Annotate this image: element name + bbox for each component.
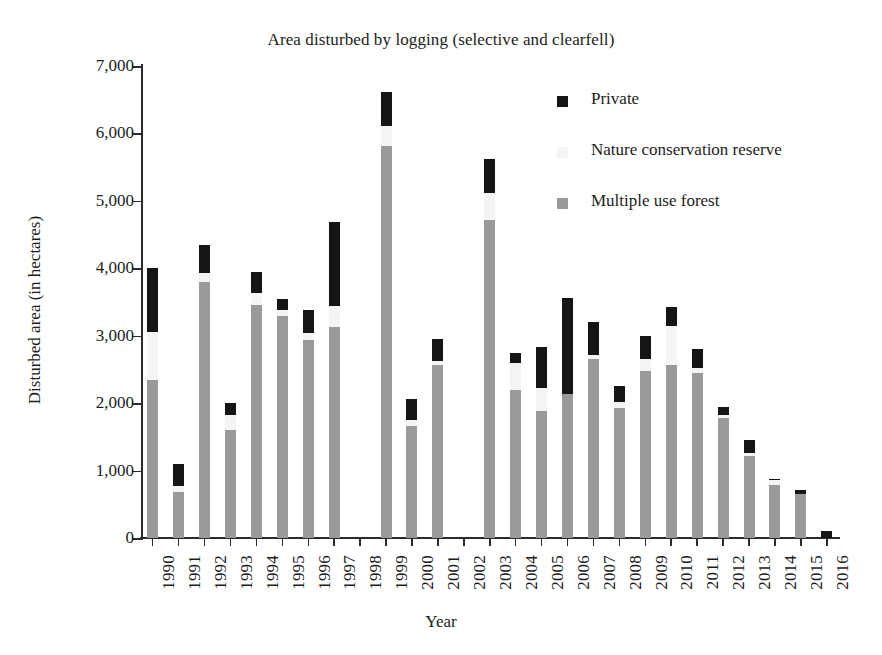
legend-item[interactable]: Multiple use forest bbox=[557, 194, 877, 245]
bar-segment[interactable] bbox=[692, 349, 703, 369]
bar-group[interactable] bbox=[821, 531, 832, 538]
bar-segment[interactable] bbox=[744, 453, 755, 456]
bar-segment[interactable] bbox=[147, 332, 158, 379]
bar-segment[interactable] bbox=[225, 415, 236, 430]
bar-group[interactable] bbox=[744, 440, 755, 538]
bar-group[interactable] bbox=[147, 268, 158, 538]
bar-segment[interactable] bbox=[225, 403, 236, 415]
bar-segment[interactable] bbox=[536, 411, 547, 538]
bar-group[interactable] bbox=[640, 336, 651, 538]
bar-segment[interactable] bbox=[795, 490, 806, 494]
bar-segment[interactable] bbox=[277, 310, 288, 315]
legend-item[interactable]: Nature conservation reserve bbox=[557, 143, 877, 194]
bar-segment[interactable] bbox=[303, 310, 314, 333]
bar-segment[interactable] bbox=[199, 245, 210, 273]
bar-segment[interactable] bbox=[432, 339, 443, 361]
bar-segment[interactable] bbox=[666, 326, 677, 366]
bar-segment[interactable] bbox=[329, 327, 340, 538]
bar-segment[interactable] bbox=[277, 299, 288, 310]
bar-segment[interactable] bbox=[381, 126, 392, 146]
bar-segment[interactable] bbox=[277, 316, 288, 539]
bar-group[interactable] bbox=[173, 464, 184, 538]
bar-segment[interactable] bbox=[173, 486, 184, 492]
bar-segment[interactable] bbox=[510, 390, 521, 538]
bar-segment[interactable] bbox=[821, 531, 832, 538]
legend-item[interactable]: Private bbox=[557, 92, 877, 143]
bar-segment[interactable] bbox=[744, 456, 755, 538]
bar-segment[interactable] bbox=[199, 282, 210, 538]
bar-segment[interactable] bbox=[406, 420, 417, 426]
bar-group[interactable] bbox=[432, 339, 443, 538]
bar-segment[interactable] bbox=[666, 365, 677, 538]
bar-segment[interactable] bbox=[718, 418, 729, 538]
bar-segment[interactable] bbox=[718, 415, 729, 418]
bar-segment[interactable] bbox=[173, 464, 184, 486]
bar-group[interactable] bbox=[303, 310, 314, 538]
bar-segment[interactable] bbox=[640, 336, 651, 359]
bar-segment[interactable] bbox=[640, 359, 651, 371]
bar-segment[interactable] bbox=[147, 268, 158, 333]
bar-group[interactable] bbox=[692, 349, 703, 538]
bar-segment[interactable] bbox=[510, 363, 521, 389]
bar-group[interactable] bbox=[718, 407, 729, 538]
bar-group[interactable] bbox=[666, 307, 677, 538]
bar-segment[interactable] bbox=[510, 353, 521, 364]
bar-segment[interactable] bbox=[588, 322, 599, 356]
bar-segment[interactable] bbox=[406, 426, 417, 538]
bar-group[interactable] bbox=[614, 386, 625, 538]
bar-segment[interactable] bbox=[744, 440, 755, 453]
bar-segment[interactable] bbox=[199, 273, 210, 282]
bar-segment[interactable] bbox=[692, 373, 703, 538]
bar-segment[interactable] bbox=[329, 306, 340, 327]
bar-segment[interactable] bbox=[303, 340, 314, 538]
bar-group[interactable] bbox=[588, 322, 599, 538]
bar-group[interactable] bbox=[562, 298, 573, 538]
bar-segment[interactable] bbox=[406, 399, 417, 420]
bar-group[interactable] bbox=[795, 490, 806, 538]
bar-group[interactable] bbox=[510, 353, 521, 538]
bar-segment[interactable] bbox=[588, 359, 599, 538]
bar-segment[interactable] bbox=[329, 222, 340, 306]
bar-segment[interactable] bbox=[718, 407, 729, 414]
bar-segment[interactable] bbox=[614, 386, 625, 403]
bar-segment[interactable] bbox=[666, 307, 677, 325]
bar-segment[interactable] bbox=[484, 220, 495, 538]
bar-group[interactable] bbox=[199, 245, 210, 538]
bar-segment[interactable] bbox=[251, 305, 262, 538]
bar-segment[interactable] bbox=[795, 494, 806, 538]
bar-segment[interactable] bbox=[769, 485, 780, 538]
bar-segment[interactable] bbox=[432, 361, 443, 365]
bar-segment[interactable] bbox=[536, 347, 547, 388]
bar-segment[interactable] bbox=[692, 368, 703, 373]
bar-segment[interactable] bbox=[769, 480, 780, 485]
bar-group[interactable] bbox=[251, 272, 262, 538]
bar-group[interactable] bbox=[406, 399, 417, 538]
bar-segment[interactable] bbox=[381, 92, 392, 126]
bar-group[interactable] bbox=[381, 92, 392, 538]
bar-segment[interactable] bbox=[640, 371, 651, 538]
bar-segment[interactable] bbox=[251, 272, 262, 293]
bar-segment[interactable] bbox=[432, 365, 443, 538]
bar-segment[interactable] bbox=[536, 388, 547, 412]
bar-group[interactable] bbox=[277, 299, 288, 538]
bar-group[interactable] bbox=[484, 159, 495, 538]
x-tick-label: 2002 bbox=[470, 555, 490, 590]
bar-group[interactable] bbox=[769, 479, 780, 538]
bar-segment[interactable] bbox=[484, 193, 495, 219]
bar-segment[interactable] bbox=[769, 479, 780, 480]
bar-segment[interactable] bbox=[173, 492, 184, 538]
bar-segment[interactable] bbox=[484, 159, 495, 193]
bar-segment[interactable] bbox=[251, 293, 262, 306]
bar-segment[interactable] bbox=[303, 333, 314, 340]
bar-segment[interactable] bbox=[225, 430, 236, 538]
bar-group[interactable] bbox=[225, 403, 236, 538]
bar-segment[interactable] bbox=[147, 380, 158, 538]
bar-segment[interactable] bbox=[588, 355, 599, 359]
bar-group[interactable] bbox=[329, 222, 340, 538]
bar-group[interactable] bbox=[536, 347, 547, 538]
bar-segment[interactable] bbox=[381, 146, 392, 538]
bar-segment[interactable] bbox=[614, 402, 625, 407]
bar-segment[interactable] bbox=[562, 298, 573, 394]
bar-segment[interactable] bbox=[614, 408, 625, 538]
bar-segment[interactable] bbox=[562, 394, 573, 538]
